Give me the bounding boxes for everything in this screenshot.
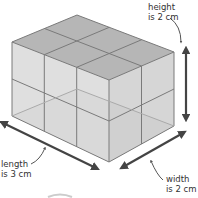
cuboid-diagram: height is 2 cm length is 3 cm width is 2…: [0, 0, 198, 198]
height-label-line1: height: [148, 2, 179, 12]
length-pointer-icon: [31, 148, 45, 164]
length-label: length is 3 cm: [1, 159, 32, 179]
width-label: width is 2 cm: [166, 174, 197, 194]
length-label-line2: is 3 cm: [1, 169, 32, 179]
width-label-line2: is 2 cm: [166, 184, 197, 194]
length-label-line1: length: [1, 159, 32, 169]
height-label-line2: is 2 cm: [148, 12, 179, 22]
width-label-line1: width: [166, 174, 197, 184]
width-pointer-icon: [151, 161, 163, 180]
height-label: height is 2 cm: [148, 2, 179, 22]
